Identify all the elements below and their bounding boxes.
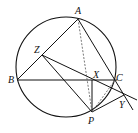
label-b: B (8, 75, 14, 85)
segment-zp (42, 55, 92, 112)
label-p: P (88, 116, 94, 126)
line-ac-extended (78, 19, 133, 110)
geometry-figure: A B C Z X P Y (0, 0, 138, 133)
label-x: X (93, 70, 99, 80)
label-z: Z (34, 45, 40, 55)
segment-ab (17, 19, 78, 80)
circumcircle (16, 17, 116, 117)
label-y: Y (119, 100, 125, 110)
label-a: A (75, 6, 81, 16)
diagram-canvas (0, 0, 138, 133)
label-c: C (116, 73, 123, 83)
